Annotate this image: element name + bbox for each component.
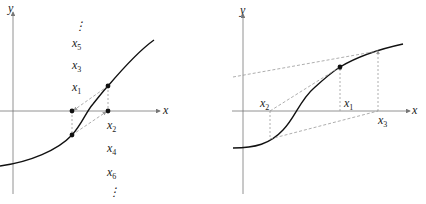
left-panel: x y ⋮ ⋮ x5 x3 x1 x2 x4 x6 (0, 1, 169, 199)
left-tangent-2 (72, 112, 106, 135)
left-y-label: y (7, 1, 14, 15)
right-panel: x y x2 x1 x3 (232, 3, 418, 194)
label-x5: x5 (71, 36, 81, 52)
right-y-label: y (239, 3, 246, 17)
left-dots-top: ⋮ (74, 19, 86, 33)
right-point-x1 (338, 65, 343, 70)
label-x3: x3 (71, 58, 81, 74)
label-x6: x6 (106, 165, 116, 181)
right-x-label: x (411, 103, 418, 117)
right-curve (233, 44, 403, 148)
right-tangent-lower (270, 111, 378, 139)
right-tangent-upper (233, 51, 378, 77)
right-tangent-x1 (270, 67, 340, 111)
diagram-svg: x y ⋮ ⋮ x5 x3 x1 x2 x4 x6 x y x2 x (0, 0, 426, 204)
left-point (70, 133, 75, 138)
left-point (106, 84, 111, 89)
left-point (70, 109, 75, 114)
label-x1: x1 (71, 80, 81, 96)
label-x1: x1 (343, 96, 353, 112)
label-x2: x2 (259, 96, 269, 112)
label-x4: x4 (106, 141, 116, 157)
left-x-label: x (162, 103, 169, 117)
left-point (106, 109, 111, 114)
newton-method-figure: x y ⋮ ⋮ x5 x3 x1 x2 x4 x6 x y x2 x (0, 0, 426, 204)
label-x2: x2 (106, 118, 116, 134)
left-dots-bottom: ⋮ (108, 185, 120, 199)
label-x3: x3 (377, 113, 387, 129)
